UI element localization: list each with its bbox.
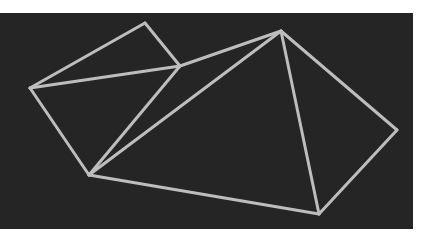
edge-C-D <box>180 31 281 66</box>
edge-E-G <box>89 175 319 214</box>
edge-F-G <box>319 130 397 214</box>
edge-C-E <box>89 66 180 175</box>
edge-B-E <box>30 88 89 175</box>
edge-D-E <box>89 31 281 175</box>
line-figure-polygon-network <box>0 0 424 233</box>
edge-A-C <box>145 23 180 66</box>
